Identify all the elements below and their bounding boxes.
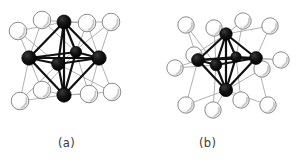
metal-right <box>250 52 263 65</box>
metal-left <box>22 51 36 65</box>
metal-rear-interior <box>231 52 241 62</box>
metal-front-interior <box>210 59 222 71</box>
metal-rear-interior <box>70 46 81 57</box>
panel-a-caption: (a) <box>58 136 75 150</box>
metal-bond-group <box>198 34 256 90</box>
cluster-diagram-canvas <box>0 0 300 163</box>
metal-bottom <box>219 83 232 96</box>
panel-b-caption: (b) <box>199 136 216 150</box>
metal-bottom <box>57 88 71 102</box>
metal-top <box>220 28 232 40</box>
metal-left <box>192 54 205 67</box>
metal-front-interior <box>52 58 65 71</box>
figure-root: (a) (b) <box>0 0 300 163</box>
metal-top <box>57 15 71 29</box>
panel-b-cluster <box>167 13 289 118</box>
panel-a-cluster <box>9 11 121 110</box>
metal-right <box>92 51 106 65</box>
